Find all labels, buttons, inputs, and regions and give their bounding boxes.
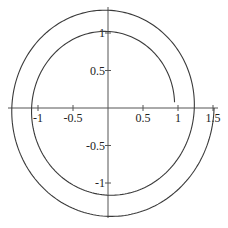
y-tick-label: 1 bbox=[99, 26, 105, 40]
x-tick-label: 1 bbox=[175, 111, 181, 125]
y-tick-label: -1 bbox=[95, 176, 105, 190]
x-tick-label: 0.5 bbox=[136, 111, 151, 125]
x-tick-label: -1 bbox=[33, 111, 43, 125]
y-tick-label: 0.5 bbox=[90, 64, 105, 78]
spiral-plot: -1-0.50.511.5 10.5-0.5-1 bbox=[0, 0, 228, 228]
y-tick-label: -0.5 bbox=[86, 139, 105, 153]
x-tick-label: -0.5 bbox=[64, 111, 83, 125]
